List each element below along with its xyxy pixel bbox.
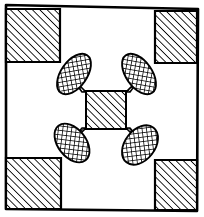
corner-square-top-right (155, 11, 197, 63)
center-square (86, 91, 126, 129)
figure-container: Hatched square frame with central hatche… (0, 0, 204, 217)
corner-square-bottom-left (6, 158, 61, 209)
diagram-canvas (0, 0, 204, 217)
corner-square-bottom-right (155, 160, 197, 210)
corner-square-top-left (6, 9, 60, 62)
